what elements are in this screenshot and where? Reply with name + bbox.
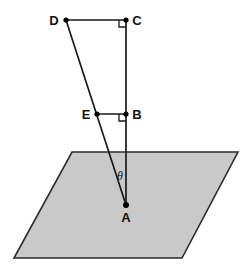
- vertex-point-d: [63, 17, 68, 22]
- vertex-point-b: [123, 111, 128, 116]
- vertex-label-b: B: [132, 107, 141, 122]
- geometry-canvas: D C E B A θ: [0, 0, 250, 272]
- vertex-label-e: E: [82, 107, 91, 122]
- vertex-label-c: C: [132, 13, 142, 28]
- geometry-diagram: D C E B A θ: [0, 0, 250, 272]
- vertex-point-a: [123, 202, 129, 208]
- vertex-label-a: A: [121, 210, 131, 225]
- angle-label-theta: θ: [117, 169, 123, 183]
- vertex-point-c: [123, 17, 128, 22]
- vertex-point-e: [94, 111, 99, 116]
- vertex-label-d: D: [49, 13, 58, 28]
